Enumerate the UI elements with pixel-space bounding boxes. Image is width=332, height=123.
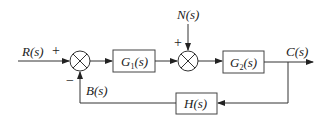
- feedback-label: B(s): [86, 83, 108, 98]
- sum2-plus-sign: +: [174, 35, 182, 50]
- g1-block: G1(s): [113, 50, 155, 72]
- input-label: R(s): [21, 44, 44, 59]
- sum1-plus-sign: +: [52, 43, 60, 58]
- g2-label: G2(s): [230, 55, 257, 72]
- g2-block: G2(s): [223, 51, 264, 73]
- g1-label: G1(s): [121, 54, 148, 71]
- h-label: H(s): [183, 96, 207, 111]
- sum1-minus-sign: −: [66, 73, 74, 88]
- summing-junction-1: [70, 51, 90, 71]
- disturbance-label: N(s): [176, 7, 199, 22]
- summing-junction-2: [178, 51, 198, 71]
- block-diagram: R(s) + G1(s) N(s) + G2(s) C(s) H(s) B: [0, 0, 332, 123]
- output-label: C(s): [286, 44, 308, 59]
- h-block: H(s): [176, 93, 217, 114]
